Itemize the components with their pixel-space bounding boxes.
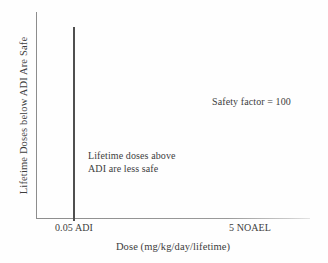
annotation-above-adi: Lifetime doses above ADI are less safe — [88, 150, 176, 175]
annotation-above-adi-line-1: Lifetime doses above — [88, 150, 176, 163]
annotation-safety-factor: Safety factor = 100 — [212, 96, 291, 107]
adi-threshold-line — [73, 27, 75, 221]
x-axis-line — [36, 218, 310, 219]
x-tick-label-adi: 0.05 ADI — [55, 222, 93, 233]
x-axis-title: Dose (mg/kg/day/lifetime) — [36, 241, 310, 252]
x-tick-label-noael: 5 NOAEL — [229, 222, 271, 233]
chart-figure: Lifetime Doses below ADI Are Safe Dose (… — [0, 0, 328, 263]
y-axis-line — [36, 12, 37, 219]
y-axis-title: Lifetime Doses below ADI Are Safe — [16, 12, 32, 219]
annotation-above-adi-line-2: ADI are less safe — [88, 163, 176, 176]
